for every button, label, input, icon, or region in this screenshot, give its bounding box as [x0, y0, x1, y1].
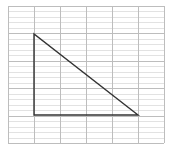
grid-canvas [0, 0, 178, 151]
grid-diagram [0, 0, 178, 151]
